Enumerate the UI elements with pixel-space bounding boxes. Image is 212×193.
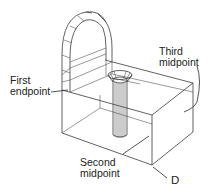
cylinder-hole — [108, 71, 132, 139]
diagram-canvas: First endpoint Third midpoint Second mid… — [0, 0, 212, 193]
label-d: D — [171, 175, 179, 186]
label-third-midpoint: Third midpoint — [159, 46, 199, 68]
block-outline — [62, 60, 193, 165]
label-second-midpoint: Second midpoint — [80, 157, 120, 179]
label-first-endpoint: First endpoint — [10, 75, 50, 97]
